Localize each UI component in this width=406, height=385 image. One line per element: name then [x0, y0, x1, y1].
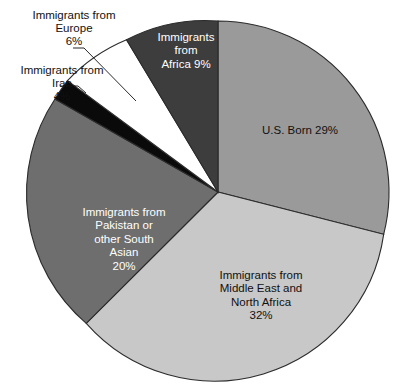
slice-label-pakistan-south-asian: Immigrants from Pakistan or other South … — [62, 206, 186, 273]
slice-label-us-born: U.S. Born 29% — [262, 124, 384, 137]
pie-chart-figure: Immigrants from Europe 6% Immigrants fro… — [0, 0, 406, 385]
slice-label-iran: Immigrants from Iran 4% — [0, 64, 124, 104]
slice-label-middle-east-north-africa: Immigrants from Middle East and North Af… — [196, 269, 326, 323]
slice-label-africa: Immigrants from Africa 9% — [140, 31, 232, 71]
slice-label-europe: Immigrants from Europe 6% — [6, 9, 142, 49]
